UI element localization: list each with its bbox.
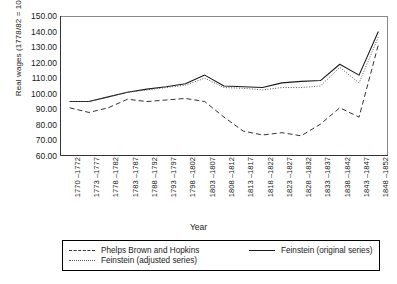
legend-label: Phelps Brown and Hopkins (101, 246, 199, 255)
plot-area (60, 16, 388, 156)
x-axis-tick-label: 1793 –1797 (169, 157, 178, 197)
x-axis-tick-label: 1798 –1802 (188, 157, 197, 197)
chart-legend: Phelps Brown and Hopkins Feinstein (orig… (62, 240, 380, 271)
legend-item-feinstein-original-series: Feinstein (original series) (249, 246, 372, 255)
x-axis-tick-label: 1843 –1847 (362, 157, 371, 197)
x-axis-tick-label: 1808 –1812 (227, 157, 236, 197)
y-axis-tick-label: 140.00 (31, 27, 57, 37)
x-axis-tick-label: 1773 –1777 (92, 157, 101, 197)
y-axis-tick-label: 60.00 (36, 151, 57, 161)
series-line (70, 45, 379, 136)
y-axis-tick-label: 150.00 (31, 11, 57, 21)
legend-swatch-solid (249, 250, 275, 251)
x-axis-tick-label: 1823 –1827 (285, 157, 294, 197)
series-line (70, 32, 379, 102)
y-axis-tick-label: 120.00 (31, 58, 57, 68)
x-axis-tick-label: 1828 –1832 (304, 157, 313, 197)
y-axis-tick-label: 80.00 (36, 120, 57, 130)
legend-item-feinstein-adjusted-series: Feinstein (adjusted series) (69, 256, 249, 265)
legend-swatch-dashed (69, 250, 95, 251)
x-axis-tick-label: 1788 –1792 (150, 157, 159, 197)
legend-row: Feinstein (adjusted series) (69, 256, 373, 265)
x-axis-tick-label: 1813 –1817 (246, 157, 255, 197)
chart-svg (60, 16, 388, 156)
y-axis-tick-label: 100.00 (31, 89, 57, 99)
series-line (70, 37, 379, 102)
x-axis-tick-label: 1848 –1852 (381, 157, 390, 197)
x-axis-tick-label: 1778 –1782 (111, 157, 120, 197)
legend-swatch-dotted (69, 260, 95, 261)
legend-row: Phelps Brown and Hopkins Feinstein (orig… (69, 246, 373, 255)
legend-label: Feinstein (original series) (281, 246, 372, 255)
y-axis-tick-label: 110.00 (32, 73, 57, 83)
y-axis-tick-label: 90.00 (36, 104, 57, 114)
y-axis-tick-label: 130.00 (31, 42, 57, 52)
chart-container: Real wages (1778/82 = 100) 150.00140.001… (0, 0, 397, 284)
legend-label: Feinstein (adjusted series) (101, 256, 197, 265)
x-axis-title: Year (0, 222, 397, 232)
x-axis-tick-label: 1838 –1842 (343, 157, 352, 197)
y-axis-tick-labels: 150.00140.00130.00120.00110.00100.0090.0… (0, 0, 57, 284)
x-axis-tick-label: 1803 –1807 (208, 157, 217, 197)
x-axis-tick-label: 1833 –1837 (323, 157, 332, 197)
legend-item-phelps-brown-and-hopkins: Phelps Brown and Hopkins (69, 246, 249, 255)
y-axis-tick-label: 70.00 (36, 135, 57, 145)
x-axis-tick-label: 1818 –1822 (266, 157, 275, 197)
x-axis-tick-labels: 1770 –17721773 –17771778 –17821783 –1787… (60, 157, 388, 217)
x-axis-tick-label: 1770 –1772 (73, 157, 82, 197)
x-axis-tick-label: 1783 –1787 (131, 157, 140, 197)
